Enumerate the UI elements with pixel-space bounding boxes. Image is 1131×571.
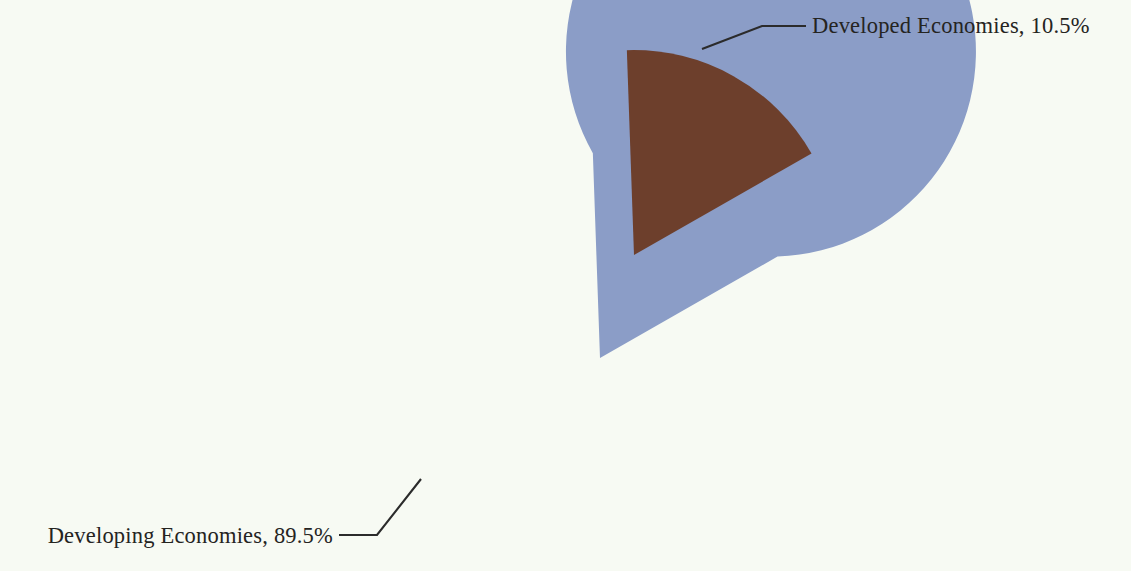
callout-label-developing-economies: Developing Economies, 89.5% (48, 523, 333, 548)
pie-chart-figure: Developed Economies, 10.5% Developing Ec… (0, 0, 1131, 571)
chart-svg-canvas: Developed Economies, 10.5% Developing Ec… (0, 0, 1131, 571)
callout-label-developed-economies: Developed Economies, 10.5% (812, 13, 1090, 38)
